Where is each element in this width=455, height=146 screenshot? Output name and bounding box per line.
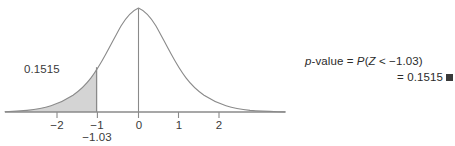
axis-ticks bbox=[57, 112, 219, 118]
z-critical-value: −1.03 bbox=[389, 55, 419, 67]
curve-panel: 0.1515 −2 −1 0 1 2 −1.03 bbox=[0, 0, 300, 146]
close-paren: ) bbox=[419, 55, 423, 67]
p-value-result: 0.1515 bbox=[407, 71, 443, 83]
value-word: -value bbox=[312, 55, 344, 67]
x-tick-label-minus-1: −1 bbox=[87, 119, 107, 131]
z-value-annotation: −1.03 bbox=[77, 131, 117, 143]
z-symbol: Z bbox=[369, 55, 376, 67]
equals-sign-2: = bbox=[397, 71, 404, 83]
x-tick-label-zero: 0 bbox=[129, 119, 149, 131]
x-tick-label-one: 1 bbox=[169, 119, 189, 131]
equals-sign-1: = bbox=[347, 55, 354, 67]
x-tick-label-two: 2 bbox=[209, 119, 229, 131]
equation-line-1: p-value = P(Z < −1.03) bbox=[303, 53, 453, 69]
less-than-sign: < bbox=[379, 55, 386, 67]
normal-curve-path bbox=[5, 8, 285, 112]
equation-panel: p-value = P(Z < −1.03) = 0.1515 bbox=[303, 53, 453, 85]
filled-square-icon bbox=[446, 74, 453, 81]
equation-line-2: = 0.1515 bbox=[303, 69, 453, 85]
normal-curve-figure: 0.1515 −2 −1 0 1 2 −1.03 p-value = P(Z <… bbox=[0, 0, 455, 146]
shaded-area-label: 0.1515 bbox=[24, 63, 60, 75]
x-tick-label-minus-2: −2 bbox=[47, 119, 67, 131]
probability-symbol: P bbox=[357, 55, 365, 67]
